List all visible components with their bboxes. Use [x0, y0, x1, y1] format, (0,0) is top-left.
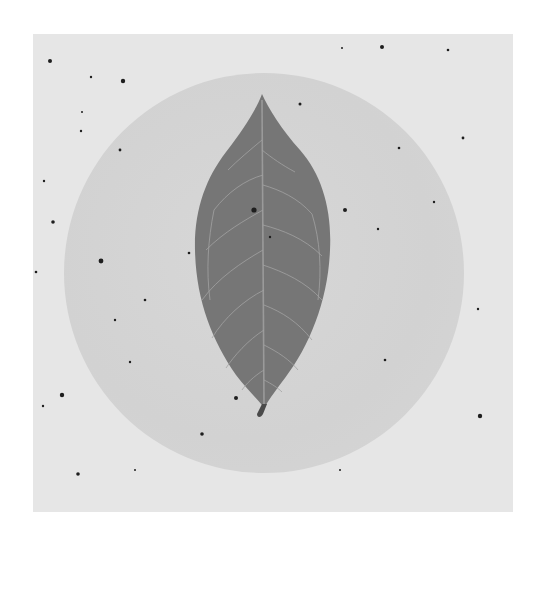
image-caption: Grayscale photograph of a single leaf pl… [0, 0, 1, 1]
leaf-illustration [0, 0, 546, 615]
leaf-stem [257, 404, 267, 417]
